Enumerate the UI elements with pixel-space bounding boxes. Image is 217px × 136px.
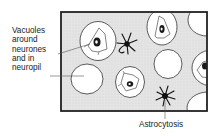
label-astrocytosis: Astrocytosis xyxy=(139,120,183,129)
neurone-vacuole-bottom-middle xyxy=(116,67,145,98)
label-vacuoles-around-neurones: Vacuoles around neurones and in neuropil xyxy=(12,26,46,72)
neurone-vacuole-top-left xyxy=(80,22,116,61)
spongiform-encephalopathy-diagram: Vacuoles around neurones and in neuropil… xyxy=(0,0,217,136)
vacuole-neuropil-middle xyxy=(154,50,182,79)
neurone-vacuole-top-middle xyxy=(147,9,177,45)
vacuole-neuropil-left xyxy=(71,64,103,94)
